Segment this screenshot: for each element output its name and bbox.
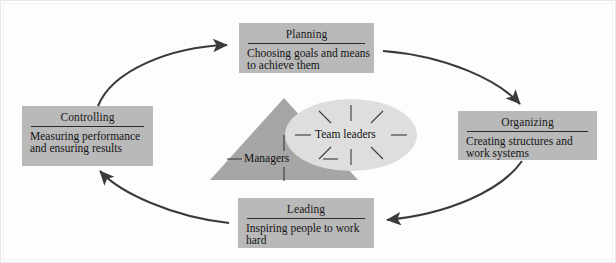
team-leaders-label: Team leaders [315, 128, 376, 140]
managers-label: Managers [244, 152, 289, 164]
center-rays-layer [1, 1, 616, 263]
management-cycle-diagram: Managers Team leaders Planning Choosing … [0, 0, 616, 263]
